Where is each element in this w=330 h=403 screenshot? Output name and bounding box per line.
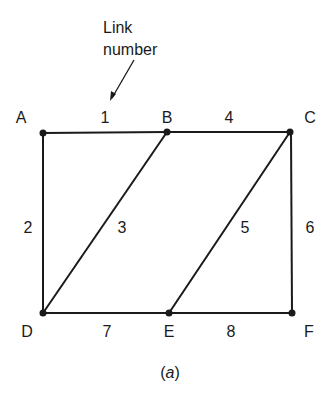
node-label-E: E: [164, 324, 175, 340]
caption-close: ): [174, 364, 179, 381]
annotation-arrow: [112, 60, 134, 98]
node-C: [287, 129, 294, 136]
node-E: [166, 310, 173, 317]
annotation-line1: Link: [103, 18, 132, 37]
caption-letter: a: [166, 364, 175, 381]
node-label-C: C: [304, 110, 316, 126]
node-D: [40, 310, 47, 317]
annotation-line2: number: [103, 40, 157, 59]
node-A: [40, 130, 47, 137]
link-label-6: 6: [306, 220, 315, 236]
link-label-1: 1: [101, 110, 110, 126]
node-label-F: F: [304, 324, 314, 340]
link-1: [43, 132, 167, 133]
link-3: [43, 132, 167, 313]
link-label-3: 3: [118, 220, 127, 236]
link-label-4: 4: [225, 110, 234, 126]
link-label-2: 2: [24, 220, 33, 236]
link-label-7: 7: [103, 324, 112, 340]
node-B: [164, 129, 171, 136]
node-label-B: B: [162, 110, 173, 126]
node-label-D: D: [21, 324, 33, 340]
node-F: [289, 310, 296, 317]
node-label-A: A: [16, 110, 27, 126]
link-label-5: 5: [241, 220, 250, 236]
figure-caption: (a): [160, 365, 180, 381]
network-graph: [0, 0, 330, 403]
link-label-8: 8: [227, 324, 236, 340]
link-6: [291, 132, 292, 313]
link-5: [169, 132, 290, 313]
